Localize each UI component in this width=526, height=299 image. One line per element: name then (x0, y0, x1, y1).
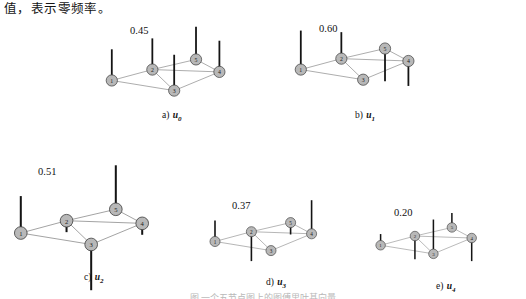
graph-node-label-3: 3 (270, 248, 273, 254)
graph-node-label-1: 1 (214, 239, 217, 245)
graph-node-label-3: 3 (362, 77, 365, 83)
graph-edge-2-5 (67, 209, 116, 220)
graph-nodes: 12345 (295, 43, 414, 85)
graph-node-label-5: 5 (384, 46, 387, 52)
graph-edge-3-4 (174, 72, 219, 91)
graph-edge-1-2 (301, 59, 342, 70)
panel-u1: 123450.60b) u1 (293, 22, 424, 92)
graph-plot-u4: 12345 (374, 205, 485, 265)
graph-plot-u1: 12345 (293, 22, 424, 92)
graph-edge-2-5 (341, 49, 385, 59)
panel-caption-subscript: 0 (178, 115, 182, 123)
graph-node-label-2: 2 (65, 218, 68, 225)
graph-edge-1-2 (215, 232, 251, 242)
graph-plot-u3: 12345 (208, 196, 326, 265)
graph-edges (215, 223, 312, 251)
graph-nodes: 12345 (14, 203, 148, 251)
graph-edge-2-4 (415, 236, 472, 238)
amplitude-label-u1: 0.60 (319, 23, 337, 34)
graph-node-label-5: 5 (289, 220, 292, 226)
body-text-paragraph: 值，表示零频率。 (4, 1, 111, 17)
signal-stems (381, 213, 472, 261)
graph-node-label-1: 1 (110, 78, 113, 84)
graph-node-label-4: 4 (310, 231, 313, 237)
panel-caption-prefix: d) (266, 277, 274, 287)
panel-u3: 123450.37d) u3 (208, 196, 326, 265)
graph-edges (21, 209, 142, 244)
graph-edge-2-4 (341, 59, 408, 61)
panel-u0: 123450.45a) u0 (104, 22, 235, 103)
panel-caption-subscript: 3 (283, 282, 287, 290)
graph-edge-1-2 (112, 70, 153, 81)
panel-caption-u0: a) u0 (162, 110, 182, 123)
signal-stems (301, 31, 409, 86)
figure-caption: 图 一个五节点图上的图傅里叶基向量 (0, 291, 526, 299)
graph-nodes: 12345 (376, 223, 477, 259)
panel-caption-vector: u (169, 110, 178, 120)
amplitude-label-u0: 0.45 (130, 25, 148, 36)
graph-edge-2-4 (251, 232, 311, 234)
graph-edges (381, 227, 472, 253)
amplitude-label-u2: 0.51 (38, 166, 56, 177)
graph-plot-u0: 12345 (104, 22, 235, 103)
graph-edge-2-5 (251, 223, 290, 232)
amplitude-label-u4: 0.20 (394, 207, 412, 218)
graph-edges (112, 59, 220, 90)
graph-edge-2-4 (67, 221, 143, 224)
panel-caption-subscript: 2 (100, 277, 104, 285)
graph-node-label-3: 3 (173, 88, 176, 94)
graph-edge-3-4 (433, 238, 471, 254)
panel-caption-u1: b) u1 (355, 110, 375, 123)
signal-stems (112, 27, 220, 91)
panel-caption-u3: d) u3 (266, 277, 286, 290)
graph-node-label-5: 5 (195, 57, 198, 63)
panel-caption-vector: u (91, 272, 100, 282)
panel-u2: 123450.51c) u2 (12, 160, 160, 296)
graph-node-label-4: 4 (218, 69, 221, 75)
panel-u4: 123450.20e) u4 (374, 205, 485, 265)
panel-caption-vector: u (363, 110, 372, 120)
graph-edge-1-2 (21, 221, 67, 233)
graph-edge-3-4 (271, 234, 312, 251)
graph-edge-3-4 (91, 223, 142, 244)
panel-caption-subscript: 1 (372, 115, 376, 123)
amplitude-label-u3: 0.37 (232, 200, 250, 211)
graph-nodes: 12345 (210, 218, 317, 256)
graph-edges (301, 49, 409, 80)
panel-caption-u2: c) u2 (84, 272, 104, 285)
graph-node-label-2: 2 (340, 56, 343, 62)
graph-edge-2-4 (152, 70, 219, 72)
graph-node-label-1: 1 (299, 67, 302, 73)
signal-stems (215, 200, 312, 261)
graph-nodes: 12345 (106, 54, 225, 96)
panel-caption-vector: u (274, 277, 283, 287)
graph-node-label-2: 2 (250, 229, 253, 235)
graph-node-label-2: 2 (151, 67, 154, 73)
graph-edge-1-2 (381, 236, 415, 245)
graph-node-label-1: 1 (19, 230, 22, 237)
panel-caption-prefix: b) (355, 110, 363, 120)
panel-caption-vector: u (443, 281, 452, 291)
graph-node-label-4: 4 (407, 58, 410, 64)
